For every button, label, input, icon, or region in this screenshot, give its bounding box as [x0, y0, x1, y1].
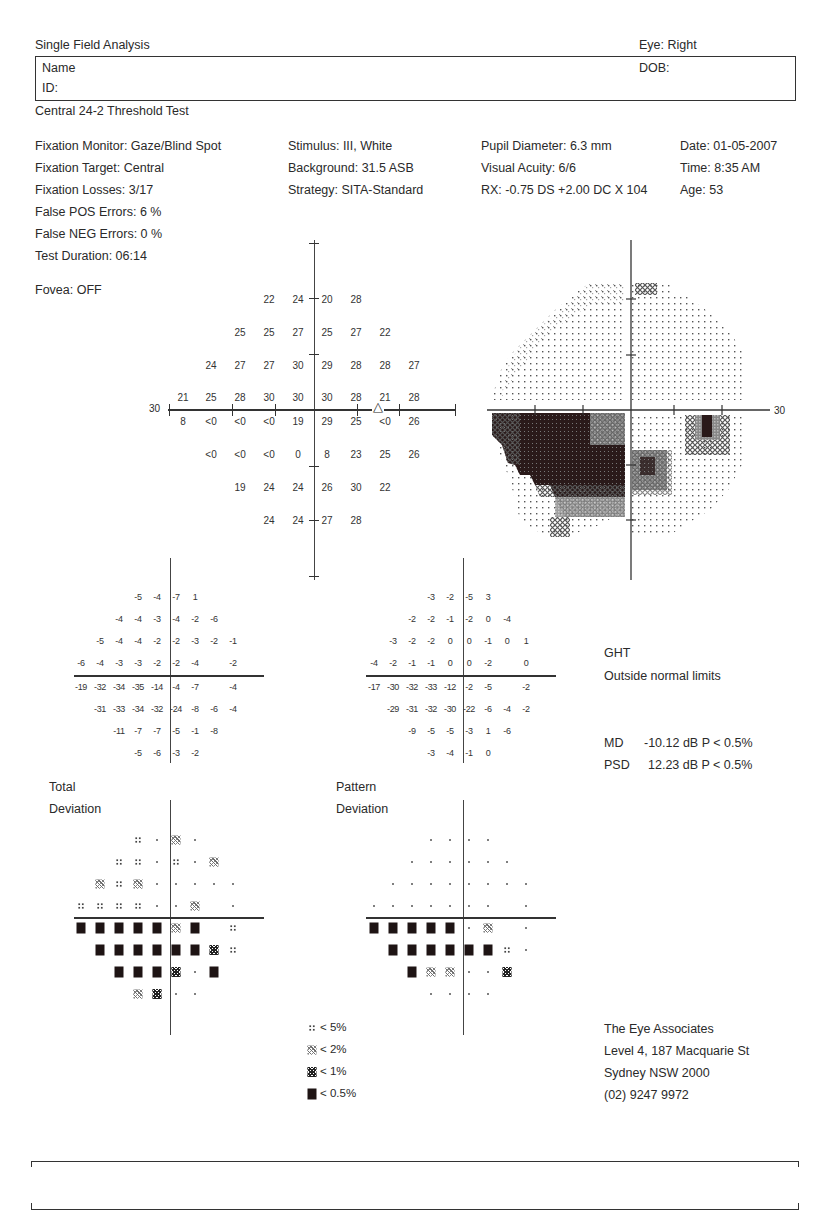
dot-symbol-icon: [487, 971, 489, 973]
dot-symbol-icon: [449, 905, 451, 907]
legend-item-p05: < 0.5%: [306, 1087, 366, 1101]
total-deviation-value: -4: [229, 682, 236, 692]
p5-symbol-icon: [116, 859, 123, 866]
total-deviation-value: -4: [115, 636, 122, 646]
pd-prob-horizontal-axis: [366, 917, 556, 919]
p05-symbol-icon: [77, 923, 86, 934]
dot-symbol-icon: [194, 861, 196, 863]
p5-symbol-icon: [135, 837, 142, 844]
pattern-deviation-value: 1: [524, 636, 529, 646]
dot-symbol-icon: [194, 839, 196, 841]
threshold-value: 23: [350, 449, 361, 460]
fovea-status: Fovea: OFF: [35, 283, 102, 297]
threshold-value: 19: [234, 482, 245, 493]
threshold-value: 27: [234, 360, 245, 371]
total-deviation-value: -2: [210, 636, 217, 646]
threshold-value: 27: [350, 327, 361, 338]
dot-symbol-icon: [468, 927, 470, 929]
pattern-deviation-value: -1: [484, 636, 491, 646]
threshold-value: 27: [321, 515, 332, 526]
total-deviation-value: -6: [210, 704, 217, 714]
pattern-deviation-value: -5: [446, 726, 453, 736]
pattern-deviation-value: -1: [446, 614, 453, 624]
dot-symbol-icon: [175, 905, 177, 907]
pattern-deviation-value: -31: [406, 704, 418, 714]
total-deviation-value: -2: [172, 658, 179, 668]
pattern-deviation-value: -2: [427, 614, 434, 624]
total-deviation-value: -3: [153, 614, 160, 624]
pattern-deviation-value: -3: [427, 748, 434, 758]
pattern-deviation-value: 0: [448, 636, 453, 646]
dot-symbol-icon: [175, 993, 177, 995]
dot-symbol-icon: [430, 883, 432, 885]
pattern-deviation-value: -9: [408, 726, 415, 736]
threshold-value: 30: [350, 482, 361, 493]
test-date: Date: 01-05-2007: [680, 139, 777, 153]
axis-tick: [309, 466, 319, 467]
total-deviation-value: -31: [94, 704, 106, 714]
legend-label-p2: < 2%: [320, 1043, 347, 1055]
threshold-value: 28: [350, 294, 361, 305]
threshold-value: 24: [292, 294, 303, 305]
dot-symbol-icon: [430, 993, 432, 995]
td-prob-horizontal-axis: [74, 917, 264, 919]
p2-symbol-icon: [484, 924, 493, 933]
md-label: MD: [604, 736, 623, 750]
dot-symbol-icon: [525, 927, 527, 929]
pattern-deviation-value: -5: [484, 682, 491, 692]
greyscale-map: [480, 235, 810, 585]
total-deviation-value: -2: [153, 658, 160, 668]
dot-symbol-icon: [411, 861, 413, 863]
p05-symbol-icon: [153, 967, 162, 978]
axis-tick: [455, 404, 456, 416]
pattern-deviation-label-2: Deviation: [336, 802, 388, 816]
td-vertical-axis: [170, 558, 171, 763]
dot-symbol-icon: [156, 861, 158, 863]
threshold-value: 26: [321, 482, 332, 493]
fixation-target: Fixation Target: Central: [35, 161, 164, 175]
p2-symbol-icon: [210, 858, 219, 867]
p2-symbol-icon: [427, 968, 436, 977]
pattern-deviation-value: -29: [387, 704, 399, 714]
axis-tick: [309, 520, 319, 521]
pattern-deviation-value: 0: [448, 658, 453, 668]
dot-symbol-icon: [392, 905, 394, 907]
total-deviation-value: -7: [134, 726, 141, 736]
total-deviation-value: -6: [77, 658, 84, 668]
total-deviation-value: -3: [115, 658, 122, 668]
pattern-deviation-value: -3: [427, 592, 434, 602]
total-deviation-value: -34: [113, 682, 125, 692]
p2-symbol-icon: [96, 880, 105, 889]
dot-symbol-icon: [430, 905, 432, 907]
total-deviation-value: -2: [229, 658, 236, 668]
clinic-address-2: Sydney NSW 2000: [604, 1066, 710, 1080]
dot-symbol-icon: [468, 905, 470, 907]
p5-symbol-icon: [116, 881, 123, 888]
total-deviation-value: -3: [172, 748, 179, 758]
p2-symbol-icon: [134, 880, 143, 889]
threshold-value: 0: [295, 449, 301, 460]
p05-symbol-icon: [465, 945, 474, 956]
threshold-value: <0: [379, 416, 390, 427]
threshold-value: 24: [263, 515, 274, 526]
dot-symbol-icon: [487, 883, 489, 885]
p05-symbol-icon: [427, 923, 436, 934]
background: Background: 31.5 ASB: [288, 161, 414, 175]
threshold-value: 25: [234, 327, 245, 338]
total-deviation-value: -1: [229, 636, 236, 646]
total-deviation-value: -7: [153, 726, 160, 736]
threshold-value: 29: [321, 416, 332, 427]
pattern-deviation-value: -22: [463, 704, 475, 714]
total-deviation-value: -35: [132, 682, 144, 692]
p05-symbol-icon: [210, 967, 219, 978]
threshold-horizontal-axis: [168, 409, 455, 411]
p05-symbol-icon: [389, 945, 398, 956]
report-title: Single Field Analysis: [35, 38, 150, 52]
axis-tick: [309, 243, 319, 244]
pattern-deviation-value: -2: [465, 682, 472, 692]
p5-symbol-icon: [230, 925, 237, 932]
legend-label-p5: < 5%: [320, 1021, 347, 1033]
false-neg-errors: False NEG Errors: 0 %: [35, 227, 162, 241]
dot-symbol-icon: [468, 839, 470, 841]
p05-symbol-icon: [408, 945, 417, 956]
